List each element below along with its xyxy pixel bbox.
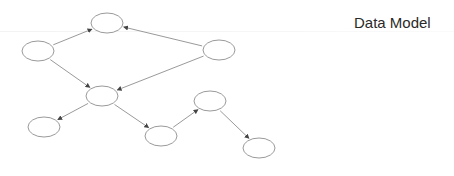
- nodes-group: [22, 13, 275, 158]
- node-n3: [203, 40, 235, 60]
- edge-n4-n5: [58, 103, 88, 119]
- node-n8: [243, 138, 275, 158]
- edge-n3-n4: [117, 56, 203, 90]
- node-n6: [145, 126, 177, 146]
- edge-n7-n8: [220, 111, 249, 138]
- edge-n4-n6: [115, 104, 149, 127]
- edge-n2-n4: [50, 60, 89, 88]
- diagram-title: Data Model: [354, 14, 431, 31]
- node-n1: [91, 13, 123, 33]
- edge-n6-n7: [173, 110, 198, 128]
- node-n5: [28, 117, 60, 137]
- edge-n2-n1: [53, 29, 91, 45]
- edge-n3-n1: [124, 27, 202, 46]
- node-n2: [22, 41, 54, 61]
- node-n4: [86, 86, 118, 106]
- node-n7: [194, 91, 226, 111]
